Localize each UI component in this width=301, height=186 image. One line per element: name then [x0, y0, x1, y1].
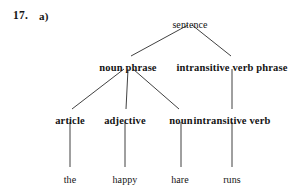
tree-node-article: article — [55, 116, 85, 127]
exercise-number: 17. — [13, 9, 28, 21]
tree-node-sentence: sentence — [172, 20, 207, 30]
tree-edge-np-to-article — [72, 69, 124, 109]
tree-edge-np-to-noun — [133, 69, 179, 109]
exercise-part-label: a) — [39, 10, 49, 22]
tree-node-runs: runs — [223, 175, 241, 185]
tree-node-adjective: adjective — [104, 116, 146, 127]
tree-node-the: the — [64, 175, 77, 185]
exercise-figure: 17. a) sentencenoun phraseintransitive v… — [0, 0, 301, 186]
tree-node-ivp: intransitive verb phrase — [177, 63, 288, 74]
parse-tree-edges — [0, 0, 301, 186]
tree-node-happy: happy — [113, 175, 138, 185]
tree-node-hare: hare — [171, 175, 189, 185]
tree-node-iv: intransitive verb — [194, 116, 271, 127]
tree-edge-np-to-adjective — [126, 69, 128, 109]
tree-node-noun: noun — [169, 116, 192, 127]
tree-node-np: noun phrase — [99, 63, 156, 74]
